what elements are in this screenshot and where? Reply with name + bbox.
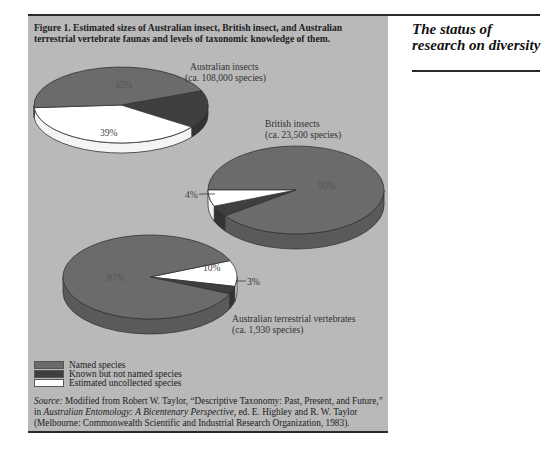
label-british-known: 4% — [185, 189, 198, 200]
label-vertebrates-known: 3% — [247, 276, 260, 287]
pie-australian-vertebrates — [63, 235, 237, 334]
source-note: Source: Modified from Robert W. Taylor, … — [34, 396, 384, 429]
legend: Named species Known but not named specie… — [34, 360, 182, 387]
label-vertebrates-uncollected: 10% — [203, 262, 221, 273]
legend-swatch-named — [34, 361, 64, 369]
label-aus-insects-named: 45% — [115, 79, 133, 90]
pie-subtitle-australian-insects: (ca. 108,000 species) — [185, 72, 266, 83]
pie-title-british-insects: British insects — [265, 118, 320, 129]
pie-british-insects — [208, 146, 384, 249]
pie-subtitle-british-insects: (ca. 23,500 species) — [265, 129, 341, 140]
legend-label: Estimated uncollected species — [69, 378, 181, 388]
label-british-named: 90% — [318, 180, 336, 191]
pie-title-australian-vertebrates: Australian terrestrial vertebrates — [232, 313, 356, 324]
pie-title-australian-insects: Australian insects — [190, 61, 258, 72]
label-aus-insects-uncollected: 39% — [100, 127, 118, 138]
source-book: Australian Entomology: A Bicentenary Per… — [44, 407, 237, 417]
label-british-uncollected: 6% — [226, 201, 239, 212]
legend-item-uncollected: Estimated uncollected species — [34, 378, 182, 387]
legend-swatch-uncollected — [34, 379, 64, 387]
legend-swatch-known — [34, 370, 64, 378]
pie-subtitle-australian-vertebrates: (ca. 1,930 species) — [232, 324, 303, 335]
source-prefix: Source: — [34, 396, 63, 406]
label-vertebrates-named: 87% — [107, 272, 125, 283]
